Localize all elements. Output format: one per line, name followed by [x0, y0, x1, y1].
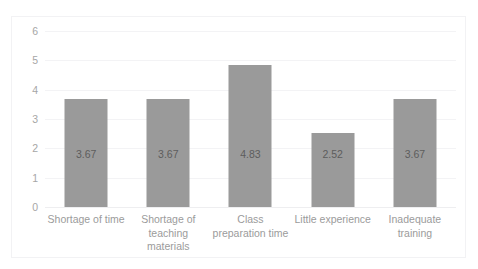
bar-slot: 3.67: [45, 31, 127, 207]
chart-frame: 6543210 3.673.674.832.523.67 Shortage of…: [11, 16, 466, 258]
bar-slot: 2.52: [292, 31, 374, 207]
bar-slot: 4.83: [209, 31, 291, 207]
x-axis-label: Shortage of teaching materials: [127, 213, 209, 254]
y-axis-tick-label: 4: [32, 84, 38, 96]
bar-value-label: 4.83: [240, 148, 260, 160]
x-axis-label: Little experience: [292, 213, 374, 227]
bar-value-label: 3.67: [405, 148, 425, 160]
x-axis-label: Inadequate training: [374, 213, 456, 240]
bar-slot: 3.67: [374, 31, 456, 207]
y-axis-tick-label: 1: [32, 172, 38, 184]
y-axis-tick-label: 0: [32, 201, 38, 213]
gridline-0: 0: [45, 207, 456, 208]
plot-area: 6543210 3.673.674.832.523.67: [45, 31, 456, 207]
bar-value-label: 3.67: [158, 148, 178, 160]
chart-figure: 6543210 3.673.674.832.523.67 Shortage of…: [0, 0, 478, 269]
y-axis-tick-label: 6: [32, 25, 38, 37]
y-axis-tick-label: 5: [32, 54, 38, 66]
y-axis-tick-label: 2: [32, 142, 38, 154]
bar[interactable]: [229, 65, 272, 207]
x-axis-label: Shortage of time: [45, 213, 127, 227]
x-axis-category-labels: Shortage of timeShortage of teaching mat…: [45, 213, 456, 257]
bar-slot: 3.67: [127, 31, 209, 207]
clipped-caption-remnant: [0, 0, 478, 8]
bar[interactable]: [311, 133, 354, 207]
x-axis-label: Class preparation time: [209, 213, 291, 240]
bar-series: 3.673.674.832.523.67: [45, 31, 456, 207]
bar-value-label: 2.52: [322, 148, 342, 160]
y-axis-tick-label: 3: [32, 113, 38, 125]
bar-value-label: 3.67: [76, 148, 96, 160]
